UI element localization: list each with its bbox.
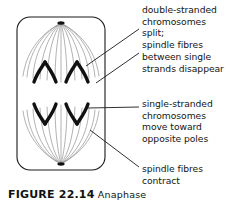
- figure-container: double-stranded chromosomes split; spind…: [0, 0, 236, 201]
- figure-caption-number: FIGURE 22.14: [8, 189, 95, 201]
- annotation-single-stranded-chromosomes: single-stranded chromosomes move toward …: [142, 98, 236, 145]
- spindle-pole-top: [57, 21, 64, 24]
- spindle-pole-bottom: [57, 162, 64, 165]
- figure-caption-text: Anaphase: [95, 189, 147, 200]
- annotation-spindle-fibres-contract: spindle fibres contract: [142, 163, 236, 186]
- figure-caption: FIGURE 22.14 Anaphase: [8, 189, 158, 201]
- annotation-double-stranded-chromosomes: double-stranded chromosomes split; spind…: [142, 4, 236, 74]
